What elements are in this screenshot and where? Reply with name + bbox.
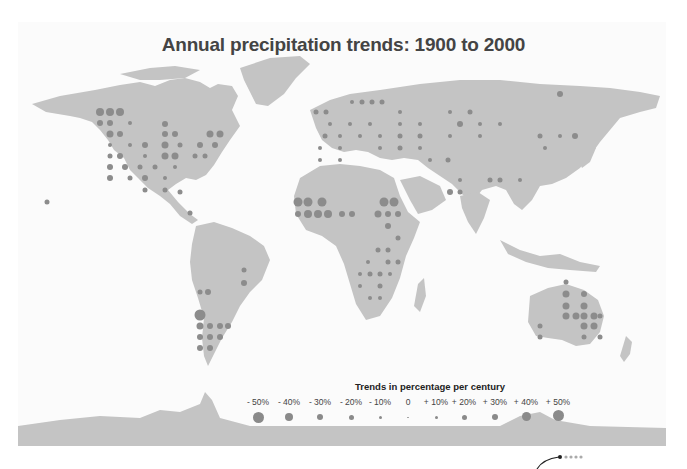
new-zealand [620, 336, 632, 362]
legend-dot [253, 412, 264, 423]
madagascar [414, 278, 426, 312]
south-america [190, 222, 270, 366]
source-logo-icon [535, 447, 615, 469]
legend-dot [317, 414, 323, 420]
legend-dot [553, 410, 564, 421]
legend-dot [407, 417, 409, 418]
legend: - 50% - 40% - 30% - 20% - 10% 0 + 10% + … [243, 397, 573, 423]
southeast-asia-islands [500, 240, 600, 272]
arabia [400, 176, 446, 214]
greenland [240, 56, 310, 106]
africa [294, 164, 420, 320]
legend-dot [379, 416, 382, 419]
north-america [32, 78, 240, 224]
arctic-islands [120, 66, 200, 80]
legend-dot [349, 415, 354, 420]
legend-dot [522, 412, 531, 421]
legend-dot [435, 416, 438, 419]
legend-dot [285, 413, 293, 421]
legend-label: + 50% [533, 397, 583, 407]
legend-item: + 50% [543, 397, 573, 421]
chart-title: Annual precipitation trends: 1900 to 200… [0, 34, 687, 56]
legend-title: Trends in percentage per century [300, 381, 560, 392]
india [460, 192, 490, 234]
legend-dot [492, 414, 498, 420]
legend-dot [462, 415, 467, 420]
